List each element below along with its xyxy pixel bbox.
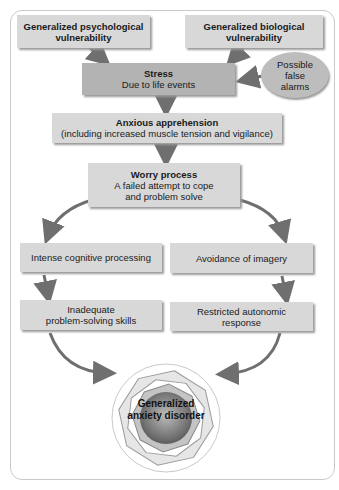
worry-process-box: Worry process A failed attempt to cope a… [88, 163, 240, 207]
worry-line2: A failed attempt to cope [114, 180, 213, 191]
alarms-line2: false [277, 70, 313, 81]
anxious-apprehension-box: Anxious apprehension (including increase… [52, 113, 282, 143]
left-step2-line1: Inadequate [67, 304, 115, 315]
restricted-autonomic-response-box: Restricted autonomic response [170, 302, 313, 331]
arrow-right-step [282, 276, 286, 297]
bio-line2: vulnerability [226, 32, 282, 43]
left-step1: Intense cognitive processing [31, 252, 151, 263]
left-step2-line2: problem-solving skills [46, 315, 136, 326]
psychological-vulnerability-box: Generalized psychological vulnerability [17, 15, 150, 48]
arrow-left-step [44, 275, 48, 296]
arrow-bio-to-stress [232, 46, 245, 60]
psych-line1: Generalized psychological [24, 21, 144, 32]
stress-title: Stress [144, 68, 173, 79]
arrow-alarms-to-stress [244, 76, 262, 80]
alarms-line3: alarms [277, 81, 313, 92]
arrow-worry-to-right [240, 200, 284, 236]
psych-line2: vulnerability [56, 32, 112, 43]
anxious-title: Anxious apprehension [116, 117, 218, 128]
right-step2-line1: Restricted autonomic [197, 306, 286, 317]
worry-line3: and problem solve [125, 191, 203, 202]
stress-box: Stress Due to life events [82, 63, 235, 95]
avoidance-of-imagery-box: Avoidance of imagery [170, 243, 313, 273]
worry-title: Worry process [131, 169, 197, 180]
alarms-line1: Possible [277, 59, 313, 70]
arrow-worry-to-left [48, 200, 92, 236]
arrow-right-to-gad [224, 333, 280, 374]
gad-line2: anxiety disorder [116, 410, 216, 422]
anxious-subtitle: (including increased muscle tension and … [61, 128, 273, 139]
generalized-anxiety-disorder-label: Generalized anxiety disorder [116, 398, 216, 422]
arrow-psych-to-stress [88, 46, 104, 60]
possible-false-alarms-ellipse: Possible false alarms [261, 52, 329, 98]
inadequate-problem-solving-box: Inadequate problem-solving skills [20, 300, 162, 330]
bio-line1: Generalized biological [204, 21, 305, 32]
biological-vulnerability-box: Generalized biological vulnerability [185, 15, 323, 48]
right-step1: Avoidance of imagery [196, 253, 287, 264]
right-step2-line2: response [222, 317, 261, 328]
gad-line1: Generalized [116, 398, 216, 410]
arrow-left-to-gad [50, 333, 108, 373]
stress-subtitle: Due to life events [122, 79, 195, 90]
intense-cognitive-processing-box: Intense cognitive processing [20, 243, 162, 272]
